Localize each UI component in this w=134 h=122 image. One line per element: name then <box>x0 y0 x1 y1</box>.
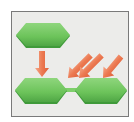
bottom-right-hexagon <box>75 78 127 104</box>
down-arrow-icon <box>35 51 49 77</box>
top-hexagon <box>16 23 70 48</box>
bottom-left-hexagon <box>15 78 67 104</box>
diagram-canvas <box>0 0 134 122</box>
